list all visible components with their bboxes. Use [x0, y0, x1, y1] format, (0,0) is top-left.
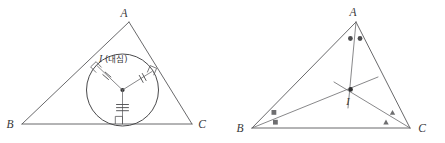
angle-mark-b-square-2	[273, 120, 278, 125]
right-vertex-label-c: C	[418, 122, 426, 134]
angle-mark-c-triangle-1	[390, 110, 395, 115]
incircle-diagram: A B C I (내심)	[0, 0, 222, 143]
angle-mark-a-dot-2	[358, 36, 363, 41]
right-angle-mark-ac-close	[147, 66, 150, 73]
left-vertex-label-c: C	[198, 118, 206, 130]
angle-mark-b-square-1	[272, 110, 277, 115]
right-incenter-label: I	[345, 96, 350, 107]
left-triangle-outline	[22, 22, 192, 124]
right-angle-mark-ac	[150, 66, 156, 76]
left-side-ab	[22, 22, 129, 124]
angle-mark-a-group	[348, 36, 362, 41]
bisector-from-b	[252, 77, 378, 128]
angle-mark-c-triangle-2	[383, 120, 388, 125]
left-side-ac	[129, 22, 192, 124]
incenter-label-i: I	[98, 53, 103, 64]
angle-mark-a-dot-1	[348, 36, 353, 41]
left-vertex-label-a: A	[119, 7, 128, 19]
figure-panel: A B C I (내심)	[0, 0, 445, 143]
left-vertex-label-b: B	[6, 118, 13, 130]
right-side-ab	[252, 22, 356, 128]
right-vertex-label-a: A	[348, 6, 357, 18]
incenter-label-group: I (내심)	[98, 53, 128, 64]
angle-mark-c-group	[383, 110, 395, 124]
incenter-label-korean: (내심)	[105, 54, 128, 64]
right-vertex-label-b: B	[236, 122, 243, 134]
right-incenter-point	[348, 87, 353, 92]
right-angle-mark-bc	[115, 116, 122, 124]
angle-bisector-diagram: A B C I	[222, 0, 445, 143]
angle-mark-b-group	[272, 110, 278, 125]
radius-segment-ab	[97, 66, 123, 91]
radius-to-bc	[115, 90, 128, 124]
radius-segment-ac	[123, 72, 153, 91]
